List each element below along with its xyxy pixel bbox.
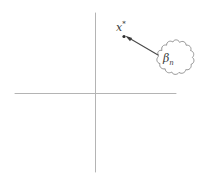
x-star-label: x* [116, 21, 126, 33]
figure-svg [0, 0, 202, 177]
beta-subscript: n [169, 59, 174, 67]
arrow-head-icon [125, 36, 132, 41]
x-star-point-dot [122, 35, 125, 38]
beta-n-label: βn [163, 53, 174, 67]
arrow-shaft [129, 38, 158, 55]
figure-canvas: x* βn [0, 0, 202, 177]
x-star-superscript: * [122, 20, 126, 28]
